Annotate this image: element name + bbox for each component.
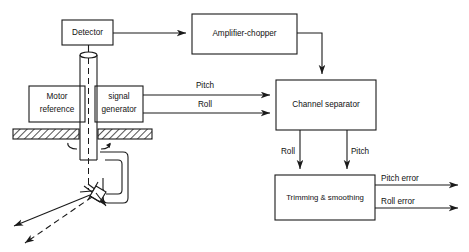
block-diagram: Detector Amplifier-chopper Motor referen… bbox=[0, 0, 469, 252]
mounting-plate-left bbox=[13, 129, 79, 139]
block-trimming-smoothing: Trimming & smoothing bbox=[275, 175, 375, 220]
mounting-plate-right bbox=[98, 129, 152, 139]
output-label-roll-error: Roll error bbox=[381, 197, 415, 206]
signal-label-pitch-mid: Pitch bbox=[351, 147, 370, 156]
block-channel-separator: Channel separator bbox=[276, 80, 376, 130]
signal-generator-label-line1: signal bbox=[108, 92, 130, 101]
trimming-smoothing-label: Trimming & smoothing bbox=[286, 193, 364, 202]
block-amplifier-chopper: Amplifier-chopper bbox=[192, 14, 297, 54]
block-motor-reference: Motor reference bbox=[29, 86, 85, 122]
motor-reference-label-line2: reference bbox=[40, 105, 75, 114]
shaft-top-cap bbox=[80, 52, 97, 58]
signal-label-roll-in: Roll bbox=[198, 100, 212, 109]
motor-reference-label-line1: Motor bbox=[47, 92, 68, 101]
block-signal-generator: signal generator bbox=[95, 86, 143, 122]
output-label-pitch-error: Pitch error bbox=[381, 174, 419, 183]
diagram-canvas: Detector Amplifier-chopper Motor referen… bbox=[0, 0, 469, 252]
block-detector: Detector bbox=[62, 20, 113, 45]
amplifier-chopper-label: Amplifier-chopper bbox=[212, 29, 276, 38]
signal-label-roll-mid: Roll bbox=[281, 147, 295, 156]
channel-separator-label: Channel separator bbox=[292, 100, 360, 109]
detector-label: Detector bbox=[72, 28, 103, 37]
signal-label-pitch-in: Pitch bbox=[196, 81, 215, 90]
signal-generator-label-line2: generator bbox=[101, 105, 136, 114]
